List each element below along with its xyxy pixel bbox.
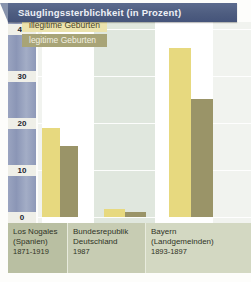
x-label-years-3: 1893-1897: [151, 247, 248, 257]
legend: illegitime Geburten legitime Geburten: [22, 19, 107, 49]
y-axis: 40 30 20 10 0: [8, 22, 36, 223]
infographic-root: Säuglingssterblichkeit (in Prozent) 40 3…: [0, 0, 251, 282]
y-tick-30: 30: [8, 71, 36, 82]
x-label-name-1: Los Nogales: [13, 227, 64, 237]
x-label-bundesrepublik: Bundesrepublik Deutschland 1987: [68, 223, 146, 273]
x-label-region-1: (Spanien): [13, 237, 64, 247]
x-label-region-2: Deutschland: [73, 237, 142, 247]
x-label-years-1: 1871-1919: [13, 247, 64, 257]
y-tick-10: 10: [8, 165, 36, 176]
y-tick-0: 0: [8, 212, 36, 223]
bar-series-container: [38, 22, 251, 223]
bar-legitimate-bayern: [191, 99, 213, 217]
title-banner: Säuglingssterblichkeit (in Prozent): [8, 3, 237, 22]
y-tick-20: 20: [8, 118, 36, 129]
bar-legitimate-bundesrepublik: [125, 212, 146, 217]
x-label-name-2: Bundesrepublik: [73, 227, 142, 237]
bar-illegitimate-bundesrepublik: [104, 209, 125, 217]
x-axis-labels: Los Nogales (Spanien) 1871-1919 Bundesre…: [8, 223, 251, 273]
x-label-name-3: Bayern: [151, 227, 248, 237]
legend-item-legitimate: legitime Geburten: [22, 34, 107, 47]
x-label-years-2: 1987: [73, 247, 142, 257]
plot-area: [38, 22, 251, 223]
x-label-los-nogales: Los Nogales (Spanien) 1871-1919: [8, 223, 68, 273]
bar-illegitimate-los-nogales: [42, 128, 60, 217]
bar-illegitimate-bayern: [169, 48, 191, 217]
page-title: Säuglingssterblichkeit (in Prozent): [18, 3, 233, 22]
x-label-region-3: (Landgemeinden): [151, 237, 248, 247]
bar-legitimate-los-nogales: [60, 146, 78, 217]
x-label-bayern: Bayern (Landgemeinden) 1893-1897: [146, 223, 251, 273]
